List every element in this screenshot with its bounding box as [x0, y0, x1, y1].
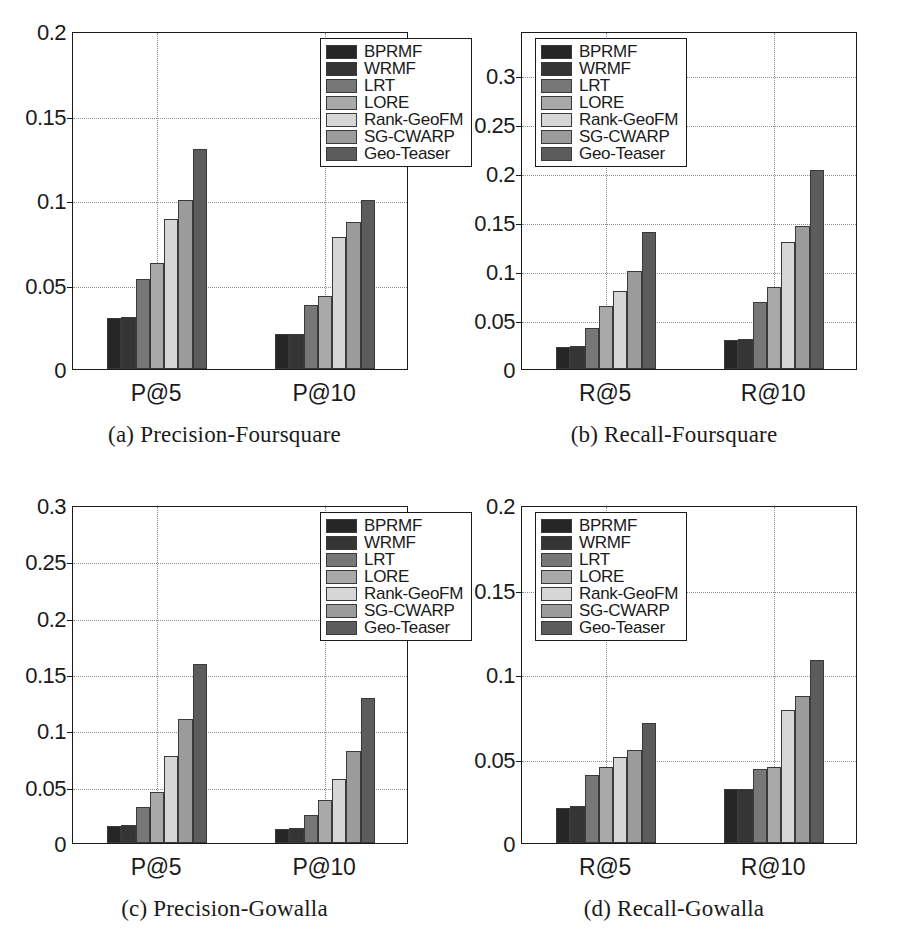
legend-item-Rank-GeoFM[interactable]: Rank-GeoFM: [541, 111, 679, 128]
bar-b-Rat5-WRMF: [570, 346, 584, 369]
bar-a-Pat5-Geo-Teaser: [193, 149, 207, 369]
panel-c: 00.050.10.150.20.250.3P@5P@10(c) Precisi…: [0, 474, 449, 949]
panel-b: 00.050.10.150.20.250.3R@5R@10(b) Recall-…: [449, 0, 899, 474]
legend-item-LRT[interactable]: LRT: [326, 551, 464, 568]
legend-item-SG-CWARP[interactable]: SG-CWARP: [541, 128, 679, 145]
legend-item-LORE[interactable]: LORE: [541, 94, 679, 111]
legend-item-WRMF[interactable]: WRMF: [541, 534, 679, 551]
x-tick-label: P@5: [131, 382, 182, 405]
x-tick-label: P@10: [292, 382, 355, 405]
gridline-horizontal: [73, 732, 407, 733]
legend-swatch-icon-LORE: [541, 570, 572, 584]
legend-item-Rank-GeoFM[interactable]: Rank-GeoFM: [541, 585, 679, 602]
bar-d-Rat10-Rank-GeoFM: [781, 710, 795, 844]
legend-item-WRMF[interactable]: WRMF: [541, 60, 679, 77]
legend-item-LRT[interactable]: LRT: [541, 77, 679, 94]
legend-item-Rank-GeoFM[interactable]: Rank-GeoFM: [326, 111, 464, 128]
y-tick-label: 0.15: [25, 665, 73, 687]
legend-swatch-icon-Rank-GeoFM: [541, 113, 572, 127]
legend-label: Rank-GeoFM: [579, 111, 678, 128]
legend-item-Geo-Teaser[interactable]: Geo-Teaser: [326, 145, 464, 162]
bar-a-Pat10-Rank-GeoFM: [332, 237, 346, 369]
legend-label: Rank-GeoFM: [579, 585, 678, 602]
y-tick-label: 0.2: [486, 496, 522, 518]
legend-label: WRMF: [364, 60, 416, 77]
bar-b-Rat5-BPRMF: [556, 347, 570, 369]
legend-item-LORE[interactable]: LORE: [326, 94, 464, 111]
bar-b-Rat10-WRMF: [738, 339, 752, 369]
legend-item-Geo-Teaser[interactable]: Geo-Teaser: [326, 619, 464, 636]
legend-swatch-icon-LRT: [541, 553, 572, 567]
bar-d-Rat5-WRMF: [570, 806, 584, 843]
legend-label: LRT: [364, 77, 395, 94]
gridline-horizontal: [522, 175, 856, 176]
legend-item-WRMF[interactable]: WRMF: [326, 534, 464, 551]
legend-label: LORE: [364, 568, 409, 585]
legend-label: LRT: [579, 551, 610, 568]
legend-label: Geo-Teaser: [364, 619, 450, 636]
legend-item-SG-CWARP[interactable]: SG-CWARP: [326, 602, 464, 619]
bar-d-Rat5-Rank-GeoFM: [613, 757, 627, 843]
legend-swatch-icon-BPRMF: [326, 45, 357, 59]
bar-c-Pat5-LRT: [136, 807, 150, 843]
bar-b-Rat10-LRT: [753, 302, 767, 369]
panel-c-plot: 00.050.10.150.20.250.3P@5P@10(c) Precisi…: [0, 474, 449, 949]
y-tick-label: 0.2: [486, 164, 522, 186]
legend-d[interactable]: BPRMFWRMFLRTLORERank-GeoFMSG-CWARPGeo-Te…: [535, 512, 687, 641]
legend-item-LORE[interactable]: LORE: [541, 568, 679, 585]
bar-d-Rat10-WRMF: [738, 789, 752, 843]
y-tick-label: 0.05: [474, 750, 522, 772]
legend-item-BPRMF[interactable]: BPRMF: [541, 43, 679, 60]
legend-c[interactable]: BPRMFWRMFLRTLORERank-GeoFMSG-CWARPGeo-Te…: [320, 512, 472, 641]
y-tick-label: 0.1: [37, 721, 73, 743]
x-tick-label: R@5: [579, 382, 631, 405]
legend-item-LRT[interactable]: LRT: [326, 77, 464, 94]
x-tick-label: P@10: [292, 856, 355, 879]
y-tick-label: 0.3: [37, 496, 73, 518]
legend-label: BPRMF: [364, 517, 422, 534]
legend-b[interactable]: BPRMFWRMFLRTLORERank-GeoFMSG-CWARPGeo-Te…: [535, 38, 687, 167]
legend-item-SG-CWARP[interactable]: SG-CWARP: [326, 128, 464, 145]
legend-item-Geo-Teaser[interactable]: Geo-Teaser: [541, 145, 679, 162]
bar-b-Rat10-Geo-Teaser: [810, 170, 824, 369]
y-tick-label: 0.15: [474, 581, 522, 603]
legend-item-SG-CWARP[interactable]: SG-CWARP: [541, 602, 679, 619]
panel-caption-b: (b) Recall-Foursquare: [449, 422, 899, 448]
legend-swatch-icon-BPRMF: [541, 519, 572, 533]
bar-c-Pat10-BPRMF: [275, 829, 289, 843]
gridline-horizontal: [522, 676, 856, 677]
bar-c-Pat5-BPRMF: [107, 826, 121, 843]
legend-swatch-icon-WRMF: [326, 62, 357, 76]
legend-item-LRT[interactable]: LRT: [541, 551, 679, 568]
legend-item-Geo-Teaser[interactable]: Geo-Teaser: [541, 619, 679, 636]
legend-item-Rank-GeoFM[interactable]: Rank-GeoFM: [326, 585, 464, 602]
legend-swatch-icon-LRT: [326, 553, 357, 567]
y-tick-label: 0.05: [474, 311, 522, 333]
legend-item-WRMF[interactable]: WRMF: [326, 60, 464, 77]
y-tick-label: 0: [503, 360, 522, 382]
legend-label: WRMF: [364, 534, 416, 551]
legend-label: SG-CWARP: [364, 602, 454, 619]
panel-caption-c: (c) Precision-Gowalla: [0, 896, 449, 922]
bar-b-Rat5-Geo-Teaser: [642, 232, 656, 369]
x-tick-label: P@5: [131, 856, 182, 879]
y-tick-label: 0.25: [474, 115, 522, 137]
legend-label: BPRMF: [579, 43, 637, 60]
legend-swatch-icon-WRMF: [541, 536, 572, 550]
legend-label: LORE: [579, 94, 624, 111]
legend-label: LRT: [579, 77, 610, 94]
legend-item-LORE[interactable]: LORE: [326, 568, 464, 585]
gridline-horizontal: [73, 202, 407, 203]
legend-item-BPRMF[interactable]: BPRMF: [541, 517, 679, 534]
legend-swatch-icon-BPRMF: [541, 45, 572, 59]
panel-d-plot: 00.050.10.150.2R@5R@10(d) Recall-Gowalla…: [449, 474, 899, 949]
legend-a[interactable]: BPRMFWRMFLRTLORERank-GeoFMSG-CWARPGeo-Te…: [320, 38, 472, 167]
bar-b-Rat10-LORE: [767, 287, 781, 369]
legend-item-BPRMF[interactable]: BPRMF: [326, 517, 464, 534]
legend-swatch-icon-Geo-Teaser: [541, 147, 572, 161]
legend-item-BPRMF[interactable]: BPRMF: [326, 43, 464, 60]
legend-label: BPRMF: [579, 517, 637, 534]
x-tick-label: R@10: [741, 856, 805, 879]
bar-c-Pat5-Geo-Teaser: [193, 664, 207, 843]
bar-b-Rat5-Rank-GeoFM: [613, 291, 627, 369]
